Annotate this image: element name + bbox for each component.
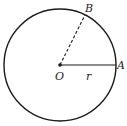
dashed-radius-ob bbox=[60, 15, 85, 65]
label-a: A bbox=[116, 59, 125, 72]
label-o: O bbox=[55, 70, 64, 83]
label-b: B bbox=[84, 2, 93, 15]
center-point bbox=[58, 63, 62, 67]
circle-diagram: B A O r bbox=[0, 0, 127, 126]
label-r: r bbox=[86, 70, 92, 83]
